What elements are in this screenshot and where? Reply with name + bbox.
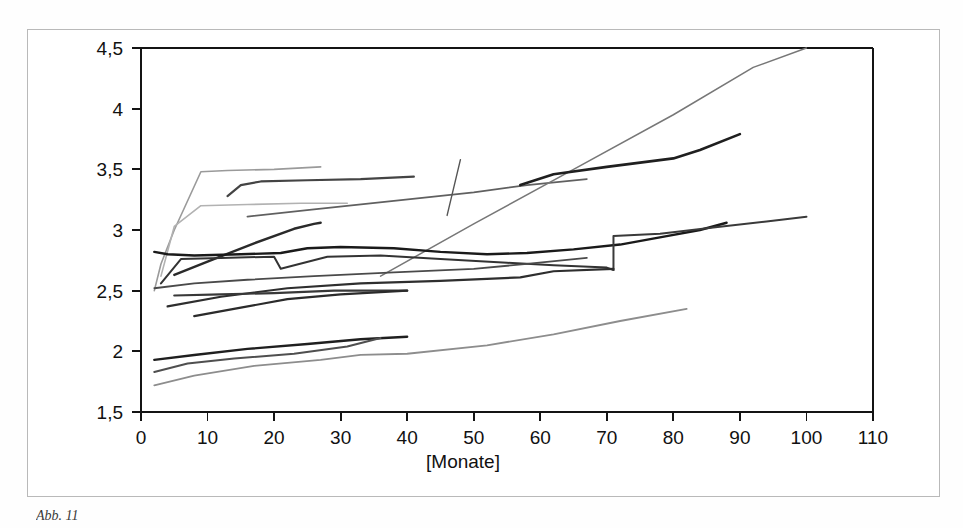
x-axis-tick-labels: 0102030405060708090100110 bbox=[136, 427, 888, 448]
x-axis-title: [Monate] bbox=[426, 451, 500, 472]
x-tick-label: 70 bbox=[596, 427, 617, 448]
x-tick-label: 30 bbox=[330, 427, 351, 448]
x-tick-label: 10 bbox=[197, 427, 218, 448]
figure-container: 1,522,533,544,5 010203040506070809010011… bbox=[0, 0, 963, 528]
series-line bbox=[520, 134, 740, 185]
data-series-group bbox=[154, 48, 806, 385]
axis-lines bbox=[132, 48, 873, 421]
y-tick-label: 4,5 bbox=[97, 38, 123, 59]
x-tick-label: 50 bbox=[463, 427, 484, 448]
x-tick-label: 110 bbox=[858, 427, 888, 448]
figure-caption: Abb. 11 bbox=[36, 508, 79, 528]
y-tick-label: 4 bbox=[112, 99, 123, 120]
x-tick-label: 80 bbox=[663, 427, 684, 448]
series-line bbox=[381, 48, 807, 276]
series-line bbox=[154, 309, 686, 385]
series-line bbox=[161, 203, 347, 276]
plot-wrapper: 1,522,533,544,5 010203040506070809010011… bbox=[0, 0, 963, 500]
series-line bbox=[613, 217, 806, 270]
series-line bbox=[161, 255, 614, 283]
series-line bbox=[154, 223, 726, 256]
x-tick-label: 100 bbox=[791, 427, 823, 448]
x-tick-label: 60 bbox=[530, 427, 551, 448]
series-line bbox=[228, 177, 414, 196]
series-line bbox=[447, 160, 460, 216]
x-tick-label: 20 bbox=[264, 427, 285, 448]
y-tick-label: 3 bbox=[112, 220, 123, 241]
series-line bbox=[168, 269, 614, 307]
y-tick-label: 1,5 bbox=[97, 402, 123, 423]
y-tick-label: 2,5 bbox=[97, 281, 123, 302]
line-chart: 1,522,533,544,5 010203040506070809010011… bbox=[0, 0, 963, 500]
y-tick-label: 2 bbox=[112, 341, 123, 362]
series-line bbox=[247, 179, 586, 217]
x-tick-label: 0 bbox=[136, 427, 147, 448]
x-tick-label: 40 bbox=[397, 427, 418, 448]
x-tick-label: 90 bbox=[729, 427, 750, 448]
y-tick-label: 3,5 bbox=[97, 159, 123, 180]
y-axis-tick-labels: 1,522,533,544,5 bbox=[97, 38, 124, 423]
